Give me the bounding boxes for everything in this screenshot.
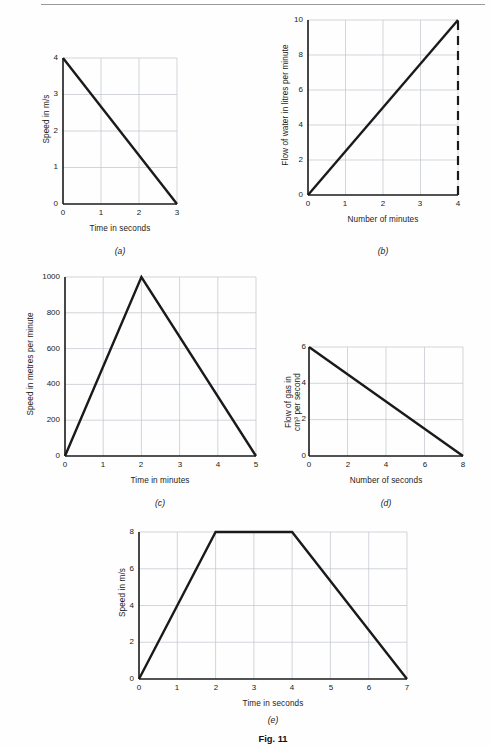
x-tick-c-0: 0 xyxy=(57,460,73,469)
y-tick-e-0: 0 xyxy=(120,674,134,683)
x-tick-b-0: 0 xyxy=(300,199,316,208)
panel-label-e: (e) xyxy=(243,715,303,725)
x-tick-e-7: 7 xyxy=(399,683,415,692)
x-tick-a-2: 2 xyxy=(131,208,147,217)
panel-label-d: (d) xyxy=(356,498,416,508)
x-tick-d-2: 2 xyxy=(340,460,356,469)
x-tick-d-6: 6 xyxy=(417,460,433,469)
chart-panel-a: 4 3 2 1 0 0 1 2 3 Time in seconds Speed … xyxy=(0,0,245,262)
x-tick-e-3: 3 xyxy=(246,683,262,692)
panel-label-b: (b) xyxy=(353,246,413,256)
x-tick-c-5: 5 xyxy=(248,460,264,469)
y-axis-title-d-line2: cm³ per second xyxy=(293,373,302,431)
x-tick-e-0: 0 xyxy=(131,683,147,692)
x-tick-e-5: 5 xyxy=(323,683,339,692)
x-tick-b-3: 3 xyxy=(412,199,428,208)
panel-label-a: (a) xyxy=(90,246,150,256)
gridlines-c xyxy=(65,277,256,456)
x-tick-a-0: 0 xyxy=(55,208,71,217)
x-tick-e-2: 2 xyxy=(208,683,224,692)
x-axis-title-c: Time in minutes xyxy=(100,476,220,485)
y-axis-title-a: Speed in m/s xyxy=(42,46,51,192)
chart-panel-d: 6 4 2 0 0 2 4 6 8 Number of seconds Flow… xyxy=(280,330,491,514)
y-axis-title-d: Flow of gas in cm³ per second xyxy=(284,348,303,456)
plot-area-a xyxy=(63,58,177,204)
chart-panel-b: 10 8 6 4 2 0 0 1 2 3 4 Number of minutes… xyxy=(245,0,491,262)
x-tick-a-1: 1 xyxy=(93,208,109,217)
x-tick-b-4: 4 xyxy=(450,199,466,208)
x-tick-c-2: 2 xyxy=(133,460,149,469)
x-tick-e-6: 6 xyxy=(361,683,377,692)
plot-area-c xyxy=(65,277,256,456)
chart-panel-c: 1000 800 600 400 200 0 0 1 2 3 4 5 Time … xyxy=(0,262,280,514)
x-tick-c-1: 1 xyxy=(95,460,111,469)
x-axis-title-d: Number of seconds xyxy=(326,476,446,485)
plot-area-e xyxy=(139,532,407,679)
x-tick-c-3: 3 xyxy=(172,460,188,469)
plot-area-d xyxy=(309,347,463,456)
x-axis-title-a: Time in seconds xyxy=(60,224,180,233)
x-tick-e-4: 4 xyxy=(284,683,300,692)
chart-panel-e: 8 6 4 2 0 0 1 2 3 4 5 6 7 Time in second… xyxy=(0,514,491,747)
x-tick-d-4: 4 xyxy=(378,460,394,469)
x-tick-d-8: 8 xyxy=(455,460,471,469)
x-tick-c-4: 4 xyxy=(210,460,226,469)
x-tick-b-2: 2 xyxy=(375,199,391,208)
panel-label-c: (c) xyxy=(130,498,190,508)
axes-c xyxy=(65,277,256,456)
y-axis-title-e: Speed in m/s xyxy=(118,519,127,666)
x-tick-a-3: 3 xyxy=(169,208,185,217)
gridlines-e xyxy=(139,532,407,679)
figure-caption: Fig. 11 xyxy=(243,733,303,744)
figure-page: 4 3 2 1 0 0 1 2 3 Time in seconds Speed … xyxy=(0,0,491,747)
data-line-c xyxy=(65,277,256,456)
y-axis-title-c: Speed in metres per minute xyxy=(26,272,35,456)
x-tick-d-0: 0 xyxy=(301,460,317,469)
x-tick-e-1: 1 xyxy=(169,683,185,692)
plot-area-b xyxy=(308,20,458,195)
y-axis-title-b: Flow of water in litres per minute xyxy=(281,15,290,195)
x-axis-title-e: Time in seconds xyxy=(213,699,333,708)
x-tick-b-1: 1 xyxy=(337,199,353,208)
y-tick-a-0: 0 xyxy=(44,199,58,208)
x-axis-title-b: Number of minutes xyxy=(323,215,443,224)
y-axis-title-d-line1: Flow of gas in xyxy=(284,376,293,428)
